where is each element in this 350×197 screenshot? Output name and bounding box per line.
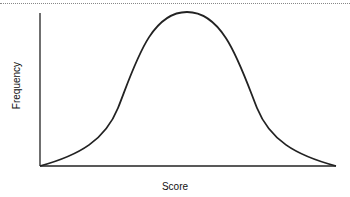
chart-plot xyxy=(0,0,350,197)
bell-curve xyxy=(40,12,336,166)
x-axis-label: Score xyxy=(0,181,350,192)
y-axis-label: Frequency xyxy=(11,56,22,116)
